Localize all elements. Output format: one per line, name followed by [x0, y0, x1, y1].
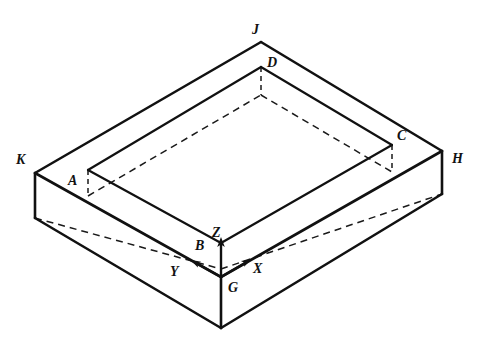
axis-label-x: X — [253, 262, 262, 276]
vertex-label-D: D — [267, 56, 277, 70]
axis-label-y: Y — [170, 265, 179, 279]
vertex-label-J: J — [252, 23, 259, 37]
vertex-label-Z: Z — [212, 226, 221, 240]
outer-top-edge-J-H — [261, 42, 442, 151]
vertex-label-K: K — [16, 153, 25, 167]
vertex-label-H: H — [452, 152, 463, 166]
vertex-label-G: G — [228, 281, 238, 295]
inner-rim-edge-A-D — [88, 67, 261, 170]
vertex-label-B: B — [195, 239, 204, 253]
isometric-tray-figure: J D C H K A Z B G X Y — [0, 0, 479, 351]
vertex-label-A: A — [68, 174, 77, 188]
outer-top-edge-K-J — [35, 42, 261, 173]
vertex-label-C: C — [397, 129, 406, 143]
